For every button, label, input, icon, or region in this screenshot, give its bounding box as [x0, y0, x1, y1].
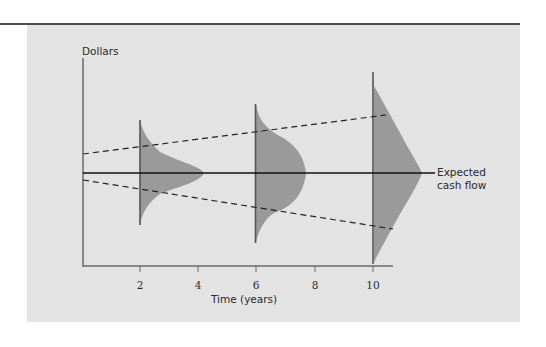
upper-bound-dashed-line	[83, 115, 386, 154]
x-tick-label-2: 2	[137, 279, 144, 291]
expected-line-label-1: Expected	[437, 166, 486, 178]
x-tick-label-4: 4	[195, 279, 202, 291]
x-tick-label-8: 8	[312, 279, 319, 291]
x-axis-label: Time (years)	[210, 293, 277, 305]
x-tick-label-10: 10	[366, 279, 379, 291]
x-tick-label-6: 6	[253, 279, 260, 291]
expected-line-label-2: cash flow	[437, 179, 487, 191]
y-axis-label: Dollars	[82, 45, 119, 57]
lower-bound-dashed-line	[83, 180, 393, 229]
distribution-year-10	[374, 86, 422, 262]
cash-flow-uncertainty-chart: Dollars Expected cash flow 2 4 6 8 10 Ti…	[0, 0, 546, 347]
